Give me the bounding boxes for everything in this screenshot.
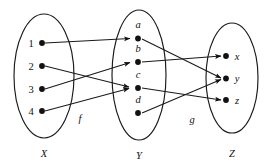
edge-f-1-to-a [45,39,130,44]
element-label-y-d: d [135,94,141,105]
node-dot-y-d [135,110,141,116]
node-dot-z-z [223,97,229,103]
element-label-x-2: 2 [28,61,33,72]
mapping-diagram: 1 2 3 4 a b c d x y z f g X Y Z [0,0,277,166]
edge-g-c-to-z [142,88,221,100]
element-label-x-1: 1 [28,38,33,49]
node-dot-y-b [135,59,141,65]
diagram-canvas: 1 2 3 4 a b c d x y z f g X Y Z [0,0,277,166]
node-dot-y-a [135,36,141,42]
node-dot-y-c [135,85,141,91]
edge-g-d-to-y [142,80,221,114]
node-dot-x-2 [39,63,45,69]
node-dot-z-y [223,76,229,82]
element-label-y-c: c [136,69,141,80]
element-label-y-b: b [135,43,140,54]
node-dot-x-1 [39,40,45,46]
element-label-z-y: y [234,73,240,84]
node-dot-x-4 [39,108,45,114]
edge-g-b-to-x [142,56,221,62]
map-label-f: f [79,113,84,124]
element-label-z-x: x [234,51,240,62]
set-ellipse-z [206,23,258,133]
set-label-z: Z [229,148,235,159]
edge-f-4-to-c [45,89,129,112]
set-label-x: X [40,148,48,159]
node-dot-x-3 [39,86,45,92]
map-label-g: g [189,114,194,125]
element-label-x-4: 4 [28,106,34,117]
edge-f-2-to-c [45,66,129,87]
edge-f-3-to-b [45,63,130,90]
node-dot-z-x [223,53,229,59]
set-label-y: Y [136,150,143,161]
set-ellipse-x [14,14,74,138]
element-label-y-a: a [135,19,140,30]
element-label-z-z: z [234,95,239,106]
element-label-x-3: 3 [28,84,33,95]
